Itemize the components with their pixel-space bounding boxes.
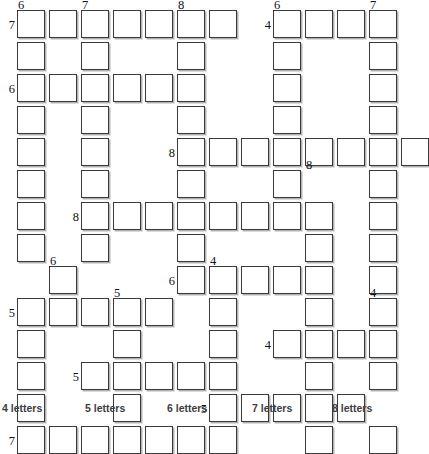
crossword-cell[interactable] bbox=[177, 170, 205, 198]
crossword-cell[interactable] bbox=[305, 234, 333, 262]
crossword-cell[interactable] bbox=[81, 106, 109, 134]
crossword-cell[interactable] bbox=[209, 426, 237, 454]
crossword-cell[interactable] bbox=[305, 362, 333, 390]
crossword-cell[interactable] bbox=[369, 10, 397, 38]
crossword-cell[interactable] bbox=[145, 202, 173, 230]
crossword-cell[interactable] bbox=[177, 106, 205, 134]
crossword-cell[interactable] bbox=[113, 10, 141, 38]
clue-length-number: 8 bbox=[178, 0, 184, 12]
crossword-cell[interactable] bbox=[209, 266, 237, 294]
crossword-cell[interactable] bbox=[369, 74, 397, 102]
crossword-cell[interactable] bbox=[369, 42, 397, 70]
crossword-cell[interactable] bbox=[17, 330, 45, 358]
crossword-cell[interactable] bbox=[369, 298, 397, 326]
crossword-cell[interactable] bbox=[17, 170, 45, 198]
crossword-cell[interactable] bbox=[241, 138, 269, 166]
crossword-cell[interactable] bbox=[81, 202, 109, 230]
crossword-cell[interactable] bbox=[81, 426, 109, 454]
crossword-cell[interactable] bbox=[273, 42, 301, 70]
crossword-cell[interactable] bbox=[305, 202, 333, 230]
crossword-cell[interactable] bbox=[49, 10, 77, 38]
crossword-cell[interactable] bbox=[81, 10, 109, 38]
crossword-cell[interactable] bbox=[145, 426, 173, 454]
crossword-cell[interactable] bbox=[49, 426, 77, 454]
crossword-cell[interactable] bbox=[113, 362, 141, 390]
crossword-cell[interactable] bbox=[209, 202, 237, 230]
crossword-cell[interactable] bbox=[81, 234, 109, 262]
crossword-cell[interactable] bbox=[209, 298, 237, 326]
crossword-cell[interactable] bbox=[177, 362, 205, 390]
crossword-cell[interactable] bbox=[369, 138, 397, 166]
crossword-cell[interactable] bbox=[369, 330, 397, 358]
crossword-cell[interactable] bbox=[49, 74, 77, 102]
crossword-cell[interactable] bbox=[369, 362, 397, 390]
crossword-cell[interactable] bbox=[113, 74, 141, 102]
crossword-cell[interactable] bbox=[177, 234, 205, 262]
crossword-cell[interactable] bbox=[145, 362, 173, 390]
crossword-cell[interactable] bbox=[17, 362, 45, 390]
crossword-cell[interactable] bbox=[81, 138, 109, 166]
crossword-cell[interactable] bbox=[177, 138, 205, 166]
crossword-cell[interactable] bbox=[209, 330, 237, 358]
crossword-cell[interactable] bbox=[369, 106, 397, 134]
crossword-cell[interactable] bbox=[209, 362, 237, 390]
crossword-cell[interactable] bbox=[305, 426, 333, 454]
crossword-cell[interactable] bbox=[17, 202, 45, 230]
crossword-cell[interactable] bbox=[337, 138, 365, 166]
crossword-cell[interactable] bbox=[177, 202, 205, 230]
crossword-cell[interactable] bbox=[177, 10, 205, 38]
crossword-cell[interactable] bbox=[145, 298, 173, 326]
crossword-cell[interactable] bbox=[17, 298, 45, 326]
crossword-cell[interactable] bbox=[305, 330, 333, 358]
crossword-cell[interactable] bbox=[241, 202, 269, 230]
crossword-cell[interactable] bbox=[17, 234, 45, 262]
crossword-cell[interactable] bbox=[177, 426, 205, 454]
crossword-cell[interactable] bbox=[177, 266, 205, 294]
crossword-cell[interactable] bbox=[305, 266, 333, 294]
crossword-cell[interactable] bbox=[81, 362, 109, 390]
crossword-cell[interactable] bbox=[17, 426, 45, 454]
crossword-cell[interactable] bbox=[113, 426, 141, 454]
crossword-cell[interactable] bbox=[81, 298, 109, 326]
crossword-cell[interactable] bbox=[369, 234, 397, 262]
crossword-cell[interactable] bbox=[145, 10, 173, 38]
crossword-cell[interactable] bbox=[369, 202, 397, 230]
crossword-cell[interactable] bbox=[17, 106, 45, 134]
crossword-cell[interactable] bbox=[337, 10, 365, 38]
crossword-cell[interactable] bbox=[273, 266, 301, 294]
crossword-cell[interactable] bbox=[369, 170, 397, 198]
crossword-cell[interactable] bbox=[273, 138, 301, 166]
crossword-cell[interactable] bbox=[209, 138, 237, 166]
crossword-cell[interactable] bbox=[305, 298, 333, 326]
crossword-cell[interactable] bbox=[113, 202, 141, 230]
crossword-cell[interactable] bbox=[81, 170, 109, 198]
crossword-cell[interactable] bbox=[81, 74, 109, 102]
crossword-cell[interactable] bbox=[273, 170, 301, 198]
crossword-cell[interactable] bbox=[209, 10, 237, 38]
crossword-cell[interactable] bbox=[177, 42, 205, 70]
crossword-cell[interactable] bbox=[401, 138, 429, 166]
crossword-cell[interactable] bbox=[241, 266, 269, 294]
crossword-cell[interactable] bbox=[17, 42, 45, 70]
crossword-cell[interactable] bbox=[273, 330, 301, 358]
crossword-cell[interactable] bbox=[305, 10, 333, 38]
crossword-cell[interactable] bbox=[145, 74, 173, 102]
crossword-cell[interactable] bbox=[113, 330, 141, 358]
crossword-cell[interactable] bbox=[273, 202, 301, 230]
crossword-cell[interactable] bbox=[337, 330, 365, 358]
crossword-cell[interactable] bbox=[17, 74, 45, 102]
crossword-cell[interactable] bbox=[17, 10, 45, 38]
clue-length-number: 7 bbox=[4, 435, 15, 448]
crossword-cell[interactable] bbox=[273, 106, 301, 134]
crossword-cell[interactable] bbox=[273, 10, 301, 38]
crossword-cell[interactable] bbox=[49, 298, 77, 326]
crossword-cell[interactable] bbox=[17, 138, 45, 166]
crossword-cell[interactable] bbox=[369, 426, 397, 454]
crossword-cell[interactable] bbox=[113, 298, 141, 326]
crossword-cell[interactable] bbox=[81, 42, 109, 70]
crossword-cell[interactable] bbox=[177, 74, 205, 102]
clue-length-number: 6 bbox=[164, 275, 175, 288]
crossword-cell[interactable] bbox=[49, 266, 77, 294]
crossword-cell[interactable] bbox=[273, 74, 301, 102]
